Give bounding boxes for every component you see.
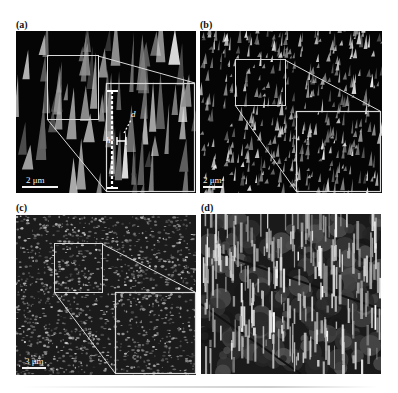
panel-label-d: (d): [201, 203, 213, 213]
sem-image-b: 2 μm: [200, 31, 382, 193]
scale-bar-c: 3 μm: [22, 357, 46, 369]
scale-bar-label-c: 3 μm: [22, 356, 44, 366]
sem-image-d: [201, 214, 381, 374]
scale-bar-a: 2 μm: [22, 176, 58, 188]
scale-bar-label-a: 2 μm: [22, 175, 45, 185]
panel-label-a: (a): [16, 20, 28, 30]
pillar-texture-d: [201, 214, 381, 374]
sem-image-c: 3 μm: [16, 215, 196, 375]
panel-label-c: (c): [16, 203, 27, 213]
panel-label-b: (b): [200, 20, 212, 30]
scale-bar-label-b: 2 μm: [203, 175, 222, 185]
granular-texture-c: [16, 215, 196, 375]
diameter-label: d: [131, 109, 136, 119]
spike-texture-b: [200, 31, 382, 193]
spike-texture-a: [16, 31, 196, 193]
page-divider: [20, 386, 378, 388]
sem-image-a: 2 μm: [16, 31, 196, 193]
height-label: h: [106, 135, 111, 145]
scale-bar-b: 2 μm: [203, 176, 223, 188]
